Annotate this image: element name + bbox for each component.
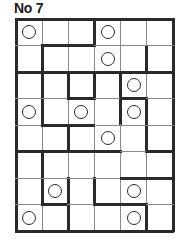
region-border <box>94 18 122 21</box>
region-border <box>145 98 148 127</box>
region-border <box>15 151 18 180</box>
region-border <box>120 97 148 100</box>
grid-line <box>146 98 174 99</box>
grid-cell[interactable] <box>95 152 121 179</box>
region-border <box>67 44 95 47</box>
region-border <box>120 18 148 21</box>
grid-line <box>15 45 43 46</box>
region-border <box>94 71 122 74</box>
grid-cell[interactable] <box>16 125 42 152</box>
grid-line <box>42 204 43 233</box>
region-border <box>94 203 122 206</box>
grid-cell[interactable] <box>68 178 94 205</box>
grid-cell[interactable] <box>42 19 68 46</box>
grid-line <box>94 204 95 233</box>
grid-cell[interactable] <box>16 178 42 205</box>
region-border <box>93 18 96 47</box>
grid-line <box>94 45 122 46</box>
grid-cell[interactable] <box>42 152 68 179</box>
region-border <box>15 150 43 153</box>
region-border <box>145 124 148 153</box>
region-border <box>15 71 18 100</box>
grid-cell[interactable] <box>68 152 94 179</box>
region-border <box>172 71 175 100</box>
grid-cell[interactable] <box>147 19 173 46</box>
region-border <box>15 45 18 74</box>
grid-line <box>68 98 69 127</box>
grid-line <box>94 45 95 74</box>
region-border <box>15 177 18 206</box>
grid-cell[interactable] <box>42 125 68 152</box>
region-border <box>146 177 174 180</box>
region-border <box>94 230 122 233</box>
grid-cell[interactable] <box>16 152 42 179</box>
grid-cell[interactable] <box>147 46 173 73</box>
grid-cell[interactable] <box>147 72 173 99</box>
region-border <box>67 204 70 233</box>
grid-line <box>94 124 95 153</box>
grid-cell[interactable] <box>121 152 147 179</box>
grid-line <box>94 151 95 180</box>
grid-cell[interactable] <box>42 205 68 232</box>
region-border <box>41 18 69 21</box>
region-border <box>120 71 148 74</box>
region-border <box>41 71 44 100</box>
region-border <box>41 177 44 206</box>
region-border <box>93 177 96 206</box>
grid-cell[interactable] <box>42 46 68 73</box>
region-border <box>41 71 69 74</box>
grid-cell[interactable] <box>95 205 121 232</box>
grid-cell[interactable] <box>147 125 173 152</box>
region-border <box>67 150 95 153</box>
region-border <box>15 204 18 233</box>
grid-line <box>41 178 69 179</box>
region-border <box>15 98 18 127</box>
grid-line <box>68 18 69 47</box>
grid-cell[interactable] <box>95 178 121 205</box>
grid-cell[interactable] <box>147 152 173 179</box>
grid-cell[interactable] <box>16 46 42 73</box>
grid-cell[interactable] <box>121 125 147 152</box>
grid-cell[interactable] <box>121 19 147 46</box>
region-border <box>119 71 122 100</box>
grid-line <box>94 178 122 179</box>
grid-cell[interactable] <box>95 99 121 126</box>
grid-cell[interactable] <box>42 72 68 99</box>
circle-icon <box>101 25 115 39</box>
grid-cell[interactable] <box>147 99 173 126</box>
region-border <box>67 97 95 100</box>
circle-icon <box>101 131 115 145</box>
grid-cell[interactable] <box>68 205 94 232</box>
grid-cell[interactable] <box>147 178 173 205</box>
grid-line <box>146 151 147 180</box>
region-border <box>172 98 175 127</box>
grid-line <box>120 125 148 126</box>
region-border <box>120 177 148 180</box>
region-border <box>119 98 122 127</box>
grid-line <box>67 178 95 179</box>
grid-line <box>146 18 147 47</box>
grid-cell[interactable] <box>121 46 147 73</box>
grid-cell[interactable] <box>95 72 121 99</box>
region-border <box>41 151 44 180</box>
grid-line <box>42 18 43 47</box>
grid-line <box>120 204 121 233</box>
region-border <box>67 71 95 74</box>
grid-cell[interactable] <box>147 205 173 232</box>
grid-cell[interactable] <box>68 125 94 152</box>
region-border <box>172 177 175 206</box>
grid-line <box>41 98 69 99</box>
grid-cell[interactable] <box>68 72 94 99</box>
grid-line <box>120 177 121 206</box>
grid-cell[interactable] <box>68 46 94 73</box>
grid-line <box>120 124 121 153</box>
region-border <box>146 18 174 21</box>
region-border <box>41 150 69 153</box>
grid-cell[interactable] <box>68 19 94 46</box>
region-border <box>67 124 70 153</box>
region-border <box>146 150 174 153</box>
grid-cell[interactable] <box>16 72 42 99</box>
region-border <box>67 230 95 233</box>
grid-cell[interactable] <box>42 99 68 126</box>
region-border <box>67 18 95 21</box>
